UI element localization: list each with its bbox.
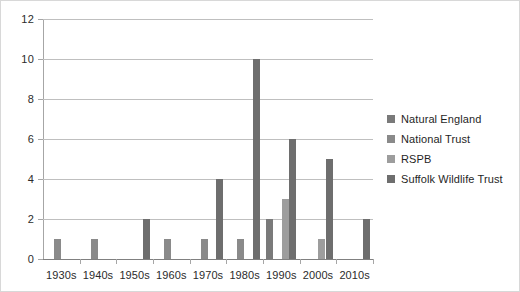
y-axis-label: 10 (21, 53, 34, 65)
legend-item: RSPB (387, 149, 517, 169)
legend-swatch-suffolk-wildlife-trust (387, 175, 395, 183)
bar-group: 1940s (80, 19, 117, 259)
bar (253, 59, 260, 259)
x-axis-label: 2010s (336, 269, 373, 281)
bar-group: 2000s (300, 19, 337, 259)
y-axis-label: 8 (28, 93, 34, 105)
bar-group: 2010s (336, 19, 373, 259)
bar-group: 1980s (226, 19, 263, 259)
bar-group: 1930s (43, 19, 80, 259)
x-axis-label: 1980s (226, 269, 263, 281)
legend-swatch-national-trust (387, 135, 395, 143)
x-axis-tick (80, 259, 81, 264)
bar (237, 239, 244, 259)
bar-group: 1990s (263, 19, 300, 259)
legend-item: Natural England (387, 109, 517, 129)
bar (363, 219, 370, 259)
chart-frame: 0246810121930s1940s1950s1960s1970s1980s1… (0, 0, 520, 292)
bar-group: 1970s (190, 19, 227, 259)
plot-area: 0246810121930s1940s1950s1960s1970s1980s1… (43, 19, 373, 259)
bar (54, 239, 61, 259)
y-axis-tick (38, 259, 43, 260)
x-axis-tick (190, 259, 191, 264)
bar (289, 139, 296, 259)
x-axis-label: 1950s (116, 269, 153, 281)
y-axis-label: 4 (28, 173, 34, 185)
bar (164, 239, 171, 259)
x-axis-tick (116, 259, 117, 264)
x-axis-tick (336, 259, 337, 264)
bar (216, 179, 223, 259)
grid-line (43, 259, 373, 260)
bar (266, 219, 273, 259)
y-axis-label: 2 (28, 213, 34, 225)
x-axis-label: 1970s (190, 269, 227, 281)
legend-item: Suffolk Wildlife Trust (387, 169, 517, 189)
x-axis-tick (373, 259, 374, 264)
x-axis-label: 1990s (263, 269, 300, 281)
grouped-bar-chart: 0246810121930s1940s1950s1960s1970s1980s1… (1, 1, 520, 292)
legend-label-national-trust: National Trust (401, 133, 470, 145)
bar-group: 1960s (153, 19, 190, 259)
x-axis-label: 2000s (300, 269, 337, 281)
legend-label-rspb: RSPB (401, 153, 431, 165)
x-axis-tick (300, 259, 301, 264)
x-axis-label: 1960s (153, 269, 190, 281)
bar (326, 159, 333, 259)
bar (201, 239, 208, 259)
legend-swatch-rspb (387, 155, 395, 163)
bar (91, 239, 98, 259)
x-axis-tick (153, 259, 154, 264)
bar (318, 239, 325, 259)
bar (143, 219, 150, 259)
bar-group: 1950s (116, 19, 153, 259)
legend-label-suffolk-wildlife-trust: Suffolk Wildlife Trust (401, 173, 503, 185)
legend-swatch-natural-england (387, 115, 395, 123)
chart-legend: Natural England National Trust RSPB Suff… (387, 109, 517, 189)
legend-label-natural-england: Natural England (401, 113, 481, 125)
x-axis-label: 1930s (43, 269, 80, 281)
y-axis-label: 0 (28, 253, 34, 265)
x-axis-tick (263, 259, 264, 264)
legend-item: National Trust (387, 129, 517, 149)
bar (282, 199, 289, 259)
x-axis-label: 1940s (80, 269, 117, 281)
x-axis-tick (226, 259, 227, 264)
y-axis-label: 12 (21, 13, 34, 25)
y-axis-label: 6 (28, 133, 34, 145)
